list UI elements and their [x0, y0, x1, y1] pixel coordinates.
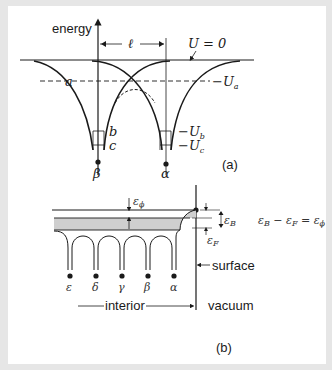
caption-b: (b)	[216, 340, 232, 355]
level-a-label: −Ua	[212, 74, 239, 91]
energy-axis-label: energy	[52, 21, 92, 36]
panel-b: ε δ γ β α εϕ εB εF εB − εF = εϕ surface …	[52, 185, 326, 355]
fermi-label: εF	[207, 234, 219, 248]
interior-label: interior	[105, 298, 145, 313]
periodic-wells	[54, 230, 180, 270]
panel-a: energy ℓ U = 0 −Ua a b c −	[20, 21, 254, 181]
well-label-c: c	[109, 138, 117, 153]
band-width-label: εB	[224, 214, 236, 228]
conduction-band	[54, 210, 196, 230]
caption-a: (a)	[222, 157, 238, 172]
atom-gamma-label: γ	[118, 281, 125, 294]
energy-diagram: energy ℓ U = 0 −Ua a b c −	[0, 0, 332, 370]
well-beta-right	[92, 61, 162, 150]
atom-beta-dot	[95, 159, 100, 164]
surface-label: surface	[212, 258, 255, 273]
atom-beta-label: β	[92, 166, 101, 181]
well-label-b: b	[109, 124, 117, 139]
atom-alpha-b-label: α	[170, 281, 178, 294]
work-function-label: εϕ	[133, 195, 145, 209]
zero-level-label: U = 0	[188, 36, 226, 51]
atom-delta-label: δ	[92, 281, 99, 294]
atom-epsilon-label: ε	[66, 281, 72, 294]
atom-beta-b-label: β	[143, 281, 150, 294]
vacuum-label: vacuum	[208, 298, 254, 313]
spacing-label: ℓ	[128, 36, 134, 51]
energy-relation: εB − εF = εϕ	[258, 214, 326, 228]
well-beta-left	[34, 61, 93, 150]
atom-alpha-label: α	[161, 166, 170, 181]
